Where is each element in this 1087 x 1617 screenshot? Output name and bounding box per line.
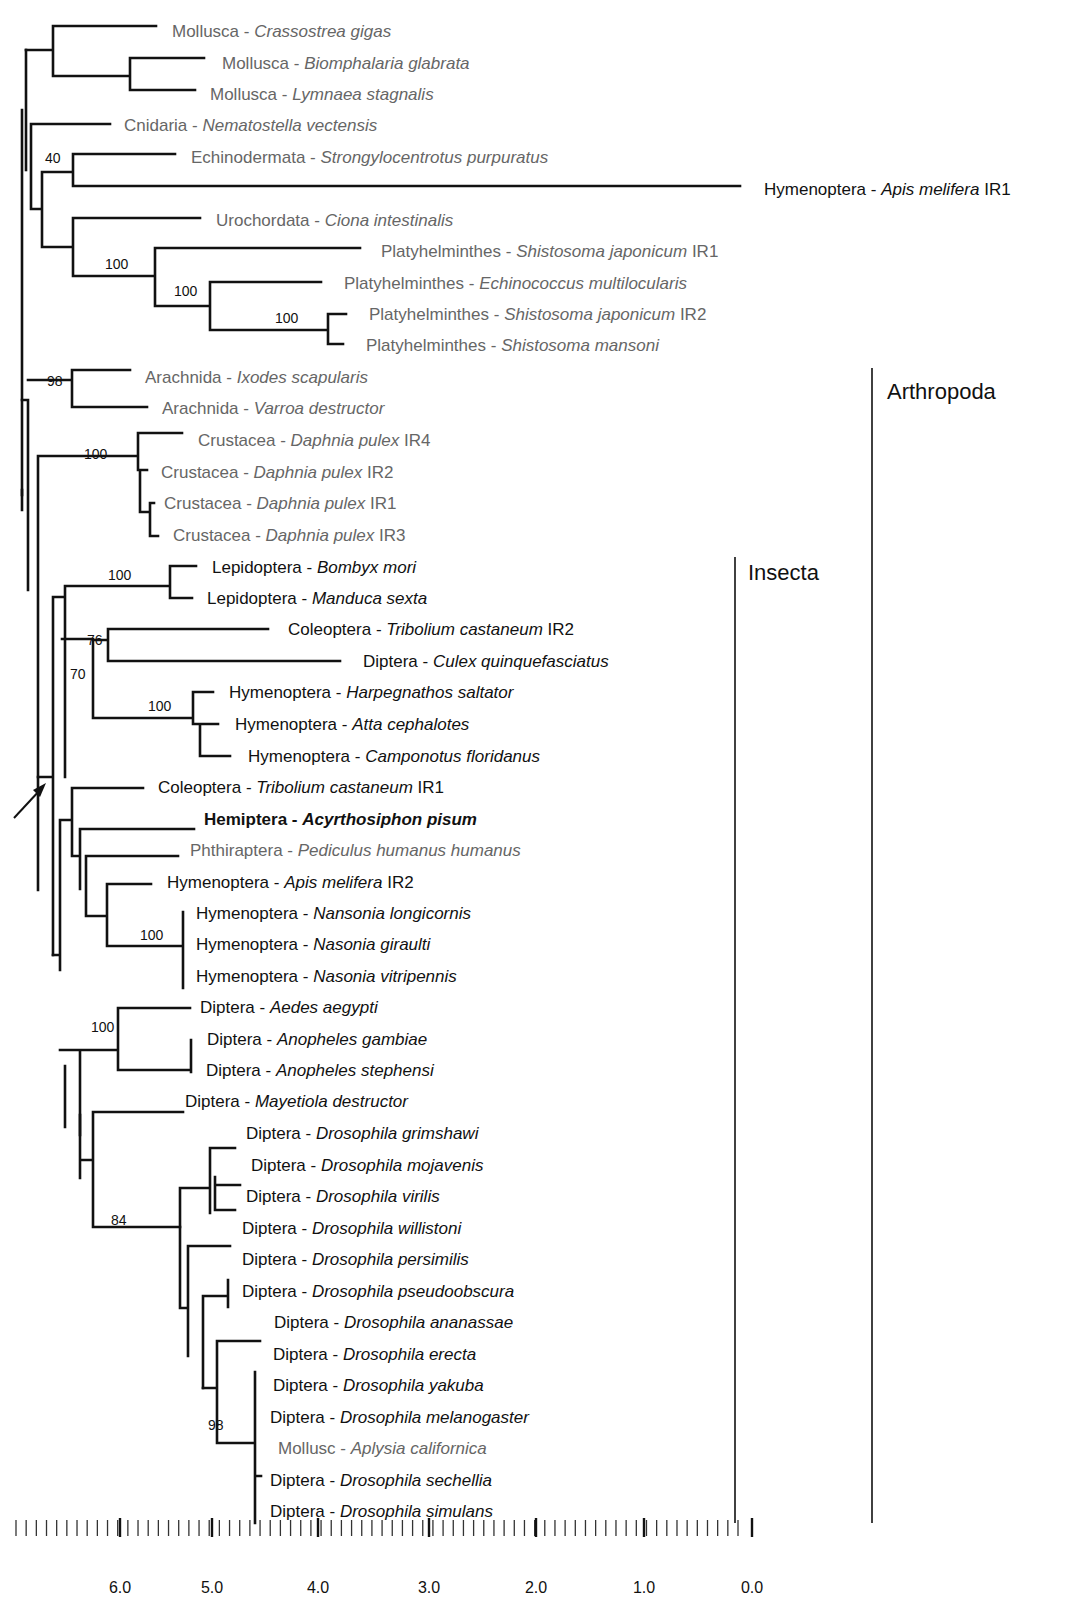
taxon-group: Cnidaria - — [124, 116, 202, 135]
taxon-group: Arachnida - — [145, 368, 237, 387]
scale-tick-label: 3.0 — [418, 1579, 440, 1596]
taxon-group: Diptera - — [206, 1061, 276, 1080]
species-name: Nasonia giraulti — [313, 935, 431, 954]
leaf-label: Diptera - Drosophila grimshawi — [246, 1124, 480, 1143]
scale-tick-label: 1.0 — [633, 1579, 655, 1596]
species-name: Shistosoma mansoni — [501, 336, 660, 355]
taxon-group: Diptera - — [200, 998, 270, 1017]
leaf-label: Diptera - Drosophila persimilis — [242, 1250, 469, 1269]
isoform-suffix: IR3 — [374, 526, 405, 545]
leaf-label: Mollusc - Aplysia californica — [278, 1439, 487, 1458]
leaf-label: Diptera - Drosophila virilis — [246, 1187, 440, 1206]
taxon-group: Hymenoptera - — [248, 747, 365, 766]
bootstrap-value: 70 — [70, 666, 86, 682]
bootstrap-value: 84 — [111, 1212, 127, 1228]
taxon-group: Diptera - — [242, 1219, 312, 1238]
clade-label: Arthropoda — [887, 379, 997, 404]
taxon-group: Mollusca - — [210, 85, 292, 104]
species-name: Camponotus floridanus — [365, 747, 540, 766]
leaf-label: Platyhelminthes - Shistosoma japonicum I… — [369, 305, 706, 324]
taxon-group: Platyhelminthes - — [366, 336, 501, 355]
taxon-group: Diptera - — [273, 1376, 343, 1395]
taxon-group: Mollusc - — [278, 1439, 351, 1458]
leaf-label: Coleoptera - Tribolium castaneum IR2 — [288, 620, 574, 639]
species-name: Aplysia californica — [350, 1439, 487, 1458]
taxon-group: Crustacea - — [164, 494, 257, 513]
scale-tick-label: 5.0 — [201, 1579, 223, 1596]
scale-tick-label: 2.0 — [525, 1579, 547, 1596]
species-name: Crassostrea gigas — [254, 22, 392, 41]
species-name: Biomphalaria glabrata — [304, 54, 469, 73]
leaf-label: Platyhelminthes - Echinococcus multilocu… — [344, 274, 687, 293]
leaf-label: Diptera - Aedes aegypti — [200, 998, 379, 1017]
taxon-group: Hymenoptera - — [229, 683, 346, 702]
taxon-group: Urochordata - — [216, 211, 325, 230]
leaf-label: Diptera - Drosophila ananassae — [274, 1313, 513, 1332]
taxon-group: Crustacea - — [173, 526, 266, 545]
species-name: Drosophila simulans — [340, 1502, 494, 1521]
arrow-icon — [14, 790, 40, 818]
species-name: Drosophila willistoni — [312, 1219, 463, 1238]
leaf-label: Diptera - Mayetiola destructor — [185, 1092, 409, 1111]
taxon-group: Diptera - — [246, 1124, 316, 1143]
isoform-suffix: IR1 — [687, 242, 718, 261]
species-name: Lymnaea stagnalis — [292, 85, 434, 104]
species-name: Apis melifera — [880, 180, 979, 199]
leaf-label: Diptera - Drosophila yakuba — [273, 1376, 484, 1395]
species-name: Drosophila pseudoobscura — [312, 1282, 514, 1301]
species-name: Shistosoma japonicum — [516, 242, 687, 261]
species-name: Strongylocentrotus purpuratus — [320, 148, 548, 167]
taxon-group: Coleoptera - — [158, 778, 256, 797]
species-name: Nansonia longicornis — [313, 904, 471, 923]
taxon-group: Hymenoptera - — [196, 967, 313, 986]
phylogenetic-tree: Mollusca - Crassostrea gigasMollusca - B… — [0, 0, 1087, 1617]
species-name: Nematostella vectensis — [202, 116, 377, 135]
taxon-group: Hymenoptera - — [235, 715, 352, 734]
bootstrap-value: 98 — [47, 373, 63, 389]
species-name: Culex quinquefasciatus — [433, 652, 609, 671]
taxon-group: Arachnida - — [162, 399, 254, 418]
leaf-label: Lepidoptera - Manduca sexta — [207, 589, 427, 608]
species-name: Drosophila melanogaster — [340, 1408, 530, 1427]
species-name: Drosophila mojavenis — [321, 1156, 484, 1175]
leaf-label: Mollusca - Lymnaea stagnalis — [210, 85, 434, 104]
leaf-label: Diptera - Drosophila pseudoobscura — [242, 1282, 514, 1301]
scale-tick-label: 4.0 — [307, 1579, 329, 1596]
taxon-group: Diptera - — [273, 1345, 343, 1364]
species-name: Anopheles stephensi — [275, 1061, 435, 1080]
species-name: Drosophila virilis — [316, 1187, 440, 1206]
isoform-suffix: IR1 — [979, 180, 1010, 199]
clade-label: Insecta — [748, 560, 820, 585]
taxon-group: Platyhelminthes - — [344, 274, 479, 293]
bootstrap-value: 100 — [84, 446, 108, 462]
species-name: Bombyx mori — [317, 558, 417, 577]
species-name: Manduca sexta — [312, 589, 427, 608]
leaf-label: Phthiraptera - Pediculus humanus humanus — [190, 841, 521, 860]
leaf-label: Diptera - Drosophila sechellia — [270, 1471, 492, 1490]
species-name: Echinococcus multilocularis — [479, 274, 687, 293]
bootstrap-value: 76 — [87, 632, 103, 648]
isoform-suffix: IR2 — [382, 873, 413, 892]
branch — [180, 1148, 240, 1388]
leaf-label: Lepidoptera - Bombyx mori — [212, 558, 417, 577]
species-name: Harpegnathos saltator — [346, 683, 515, 702]
bootstrap-value: 100 — [105, 256, 129, 272]
species-name: Daphnia pulex — [291, 431, 400, 450]
taxon-group: Diptera - — [270, 1502, 340, 1521]
leaf-label: Diptera - Drosophila mojavenis — [251, 1156, 484, 1175]
species-name: Drosophila yakuba — [343, 1376, 484, 1395]
isoform-suffix: IR1 — [413, 778, 444, 797]
species-name: Acyrthosiphon pisum — [301, 810, 477, 829]
leaf-label: Diptera - Drosophila willistoni — [242, 1219, 462, 1238]
species-name: Aedes aegypti — [269, 998, 379, 1017]
branch — [22, 370, 147, 590]
taxon-group: Platyhelminthes - — [381, 242, 516, 261]
species-name: Mayetiola destructor — [255, 1092, 409, 1111]
species-name: Drosophila persimilis — [312, 1250, 469, 1269]
taxon-group: Lepidoptera - — [212, 558, 317, 577]
scale-bar: 6.05.04.03.02.01.00.0 — [16, 1518, 763, 1596]
bootstrap-value: 40 — [45, 150, 61, 166]
species-name: Atta cephalotes — [351, 715, 470, 734]
isoform-suffix: IR2 — [675, 305, 706, 324]
leaf-label: Diptera - Drosophila melanogaster — [270, 1408, 530, 1427]
